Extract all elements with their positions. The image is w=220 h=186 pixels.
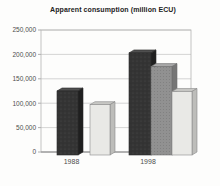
bar <box>172 91 192 155</box>
bar-side-face <box>192 88 197 155</box>
y-tick-label: 0 <box>32 148 36 155</box>
plot-area: 050,000100,000150,000200,000250,00019881… <box>0 0 220 186</box>
bar-side-face <box>110 102 115 155</box>
bar <box>151 67 172 155</box>
bar <box>90 105 110 155</box>
bar-side-face <box>78 88 83 155</box>
bar <box>57 91 78 155</box>
y-tick-label: 150,000 <box>13 75 37 82</box>
x-tick-label: 1998 <box>140 158 156 165</box>
y-tick-label: 250,000 <box>13 26 37 33</box>
bar <box>129 53 151 155</box>
y-tick-label: 200,000 <box>13 51 37 58</box>
apparent-consumption-chart: Apparent consumption (million ECU) 050,0… <box>0 0 220 186</box>
y-tick-label: 100,000 <box>13 100 37 107</box>
y-tick-label: 50,000 <box>16 124 36 131</box>
x-tick-label: 1988 <box>64 158 80 165</box>
